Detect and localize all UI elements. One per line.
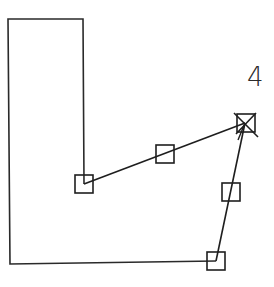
diagram-canvas: 4 [0,0,274,287]
step-label: 4 [247,62,264,92]
selected-vertex-handle-b[interactable] [234,113,258,140]
outline-path [8,19,216,264]
edge-a-b [84,123,245,184]
